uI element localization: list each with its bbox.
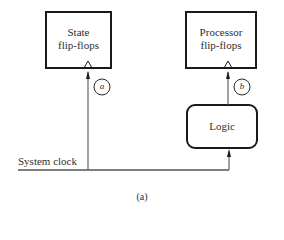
logic-block-label: Logic — [187, 120, 257, 133]
system-clock-label: System clock — [18, 155, 77, 168]
processor-label-line2: flip-flops — [186, 39, 256, 52]
marker-b-label: b — [236, 80, 248, 93]
figure-caption: (a) — [128, 190, 156, 203]
marker-a-label: a — [96, 80, 108, 93]
processor-label-line1: Processor — [186, 26, 256, 39]
arrow-head-icon — [86, 71, 90, 79]
clock-input-triangle-icon — [224, 61, 232, 68]
processor-block-label: Processor flip-flops — [186, 26, 256, 52]
state-label-line2: flip-flops — [46, 39, 111, 52]
state-label-line1: State — [46, 26, 111, 39]
arrow-head-icon — [226, 71, 230, 79]
state-block-label: State flip-flops — [46, 26, 111, 52]
arrow-head-icon — [227, 149, 231, 157]
clock-input-triangle-icon — [84, 61, 92, 68]
